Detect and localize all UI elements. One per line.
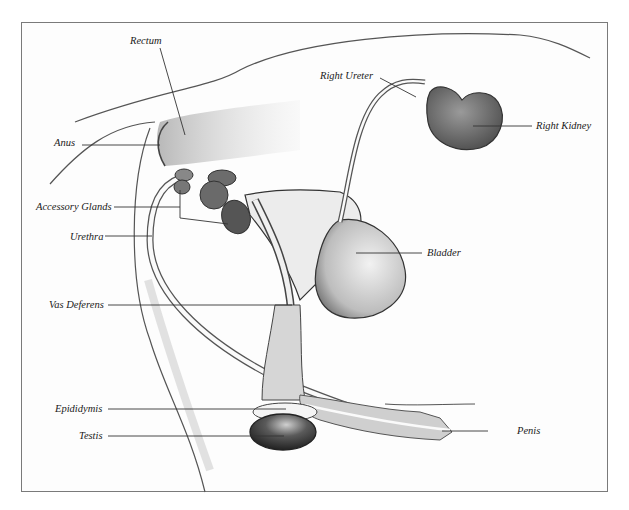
label-urethra: Urethra (70, 231, 103, 243)
penis-shape (300, 395, 452, 440)
accessory-gland-1 (175, 169, 193, 181)
body-outline-tail (50, 122, 155, 184)
label-testis: Testis (79, 430, 103, 442)
rectum-shape (157, 100, 300, 166)
label-penis: Penis (517, 425, 540, 437)
label-epididymis: Epididymis (55, 403, 102, 415)
label-accessory-glands: Accessory Glands (36, 201, 112, 213)
label-anus: Anus (54, 137, 75, 149)
bladder-shape (315, 219, 405, 318)
label-right-ureter: Right Ureter (320, 70, 373, 82)
spermatic-cord (262, 305, 305, 400)
testis-shape (250, 414, 316, 450)
label-vas-deferens: Vas Deferens (49, 299, 104, 311)
label-bladder: Bladder (427, 247, 461, 259)
accessory-gland-2 (174, 180, 190, 194)
label-rectum: Rectum (130, 35, 162, 47)
right-kidney-shape (427, 87, 503, 150)
label-right-kidney: Right Kidney (536, 120, 591, 132)
accessory-gland-4 (200, 181, 228, 209)
